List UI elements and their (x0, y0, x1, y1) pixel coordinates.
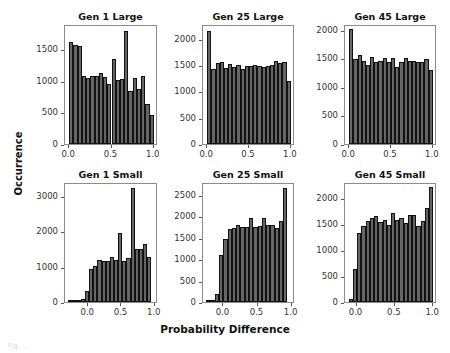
x-tick-mark (348, 145, 349, 148)
y-tick-label: 1000 (22, 262, 58, 272)
histogram-bar (287, 81, 291, 144)
y-tick-label: 1500 (302, 53, 338, 63)
y-tick-label: 500 (302, 110, 338, 120)
x-tick-label: 0.5 (379, 307, 409, 317)
x-tick-label: 0.0 (207, 307, 237, 317)
y-tick-mark (341, 116, 344, 117)
histogram-bar (150, 115, 154, 144)
y-tick-mark (341, 251, 344, 252)
y-tick-mark (61, 50, 64, 51)
y-tick-label: 1000 (302, 82, 338, 92)
y-tick-mark (61, 145, 64, 146)
y-tick-mark (61, 303, 64, 304)
x-tick-mark (432, 303, 433, 306)
x-tick-mark (257, 303, 258, 306)
y-tick-label: 2500 (160, 190, 196, 200)
panel-title-gen-1-small: Gen 1 Small (64, 169, 157, 180)
y-tick-mark (199, 119, 202, 120)
panel-gen-45-large (344, 25, 436, 145)
y-tick-mark (199, 196, 202, 197)
y-tick-label: 1500 (22, 44, 58, 54)
panel-title-gen-45-large: Gen 45 Large (344, 11, 436, 22)
y-tick-label: 1500 (302, 219, 338, 229)
y-tick-label: 0 (22, 297, 58, 307)
x-tick-label: 1.0 (139, 307, 169, 317)
x-tick-mark (206, 145, 207, 148)
panel-gen-25-small (202, 183, 294, 303)
x-tick-mark (291, 303, 292, 306)
x-tick-mark (432, 145, 433, 148)
x-tick-mark (248, 145, 249, 148)
y-tick-mark (199, 260, 202, 261)
panel-gen-1-large (64, 25, 157, 145)
y-tick-mark (199, 66, 202, 67)
x-tick-label: 1.0 (417, 149, 447, 159)
x-tick-mark (394, 303, 395, 306)
y-tick-label: 1000 (22, 76, 58, 86)
panel-title-gen-1-large: Gen 1 Large (64, 11, 157, 22)
y-tick-mark (61, 232, 64, 233)
histogram-bar (147, 257, 151, 302)
x-tick-mark (154, 303, 155, 306)
x-tick-mark (222, 303, 223, 306)
y-tick-mark (199, 40, 202, 41)
x-tick-mark (290, 145, 291, 148)
y-tick-label: 1000 (160, 254, 196, 264)
x-tick-label: 0.0 (72, 307, 102, 317)
y-tick-label: 1000 (302, 245, 338, 255)
y-tick-mark (341, 199, 344, 200)
y-tick-mark (341, 225, 344, 226)
y-tick-label: 1500 (160, 233, 196, 243)
x-tick-label: 0.5 (375, 149, 405, 159)
y-tick-mark (341, 303, 344, 304)
y-tick-mark (341, 88, 344, 89)
x-tick-label: 0.5 (242, 307, 272, 317)
figure-caption: Fig. ... (8, 342, 29, 350)
x-tick-label: 0.5 (233, 149, 263, 159)
y-tick-label: 1500 (160, 60, 196, 70)
y-tick-mark (61, 82, 64, 83)
y-tick-mark (199, 145, 202, 146)
y-tick-label: 0 (302, 297, 338, 307)
panel-gen-45-small (344, 183, 436, 303)
y-tick-mark (341, 59, 344, 60)
y-tick-label: 2000 (302, 193, 338, 203)
y-tick-mark (61, 268, 64, 269)
y-tick-label: 500 (22, 107, 58, 117)
x-tick-label: 1.0 (138, 149, 168, 159)
y-tick-mark (61, 113, 64, 114)
y-tick-mark (199, 92, 202, 93)
panel-title-gen-45-small: Gen 45 Small (344, 169, 436, 180)
y-tick-label: 500 (160, 113, 196, 123)
y-tick-mark (199, 303, 202, 304)
y-tick-label: 2000 (160, 34, 196, 44)
y-tick-label: 2000 (302, 25, 338, 35)
x-tick-mark (111, 145, 112, 148)
y-tick-label: 3000 (22, 191, 58, 201)
x-tick-mark (356, 303, 357, 306)
x-tick-mark (87, 303, 88, 306)
y-tick-label: 500 (160, 276, 196, 286)
y-axis-label: Occurrence (13, 124, 24, 204)
x-tick-label: 0.0 (341, 307, 371, 317)
y-tick-mark (341, 277, 344, 278)
panel-gen-25-large (202, 25, 294, 145)
histogram-bar (429, 187, 433, 302)
y-tick-label: 500 (302, 271, 338, 281)
x-tick-label: 1.0 (276, 307, 306, 317)
y-tick-mark (199, 282, 202, 283)
y-tick-mark (199, 217, 202, 218)
x-tick-label: 1.0 (417, 307, 447, 317)
x-tick-mark (390, 145, 391, 148)
y-tick-label: 0 (160, 139, 196, 149)
panel-title-gen-25-small: Gen 25 Small (202, 169, 294, 180)
y-tick-label: 1000 (160, 86, 196, 96)
y-tick-mark (341, 145, 344, 146)
histogram-bar (429, 70, 433, 144)
x-axis-label: Probability Difference (150, 323, 300, 335)
y-tick-label: 2000 (22, 226, 58, 236)
x-tick-label: 0.5 (105, 307, 135, 317)
y-tick-label: 0 (160, 297, 196, 307)
panel-gen-1-small (64, 183, 157, 303)
x-tick-label: 0.0 (333, 149, 363, 159)
